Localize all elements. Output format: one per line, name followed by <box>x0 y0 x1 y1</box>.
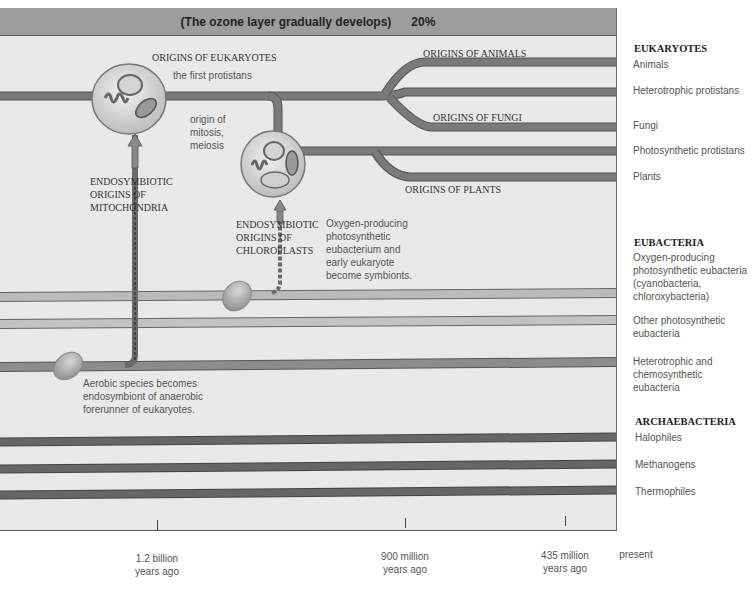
oxygen-symbionts-label: Oxygen-producing photosynthetic eubacter… <box>326 217 412 282</box>
legend-halophiles: Halophiles <box>635 431 682 444</box>
legend-oxygen-producing-eubacteria: Oxygen-producing photosynthetic eubacter… <box>633 251 747 303</box>
tick-1-2-billion <box>157 520 158 530</box>
legend-fungi: Fungi <box>633 119 658 132</box>
legend-animals: Animals <box>633 58 669 71</box>
tick-435-million <box>565 516 566 526</box>
cyanobacterium-icon <box>217 275 257 316</box>
first-protistans-label: the first protistans <box>173 69 252 82</box>
first-protistan-cell-icon <box>92 64 166 134</box>
photosynthetic-cell-icon <box>241 131 305 197</box>
legend-other-photosynthetic-eubacteria: Other photosynthetic eubacteria <box>633 314 725 340</box>
archaebacteria-heading: ARCHAEBACTERIA <box>635 416 736 427</box>
tick-900-million <box>405 518 406 528</box>
endosymbiotic-mitochondria-label: ENDOSYMBIOTIC ORIGINS OF MITOCHONDRIA <box>90 175 173 214</box>
endosymbiotic-chloroplasts-label: ENDOSYMBIOTIC ORIGINS OF CHLOROPLASTS <box>236 218 319 257</box>
eukaryotes-heading: EUKARYOTES <box>634 43 707 54</box>
legend-heterotrophic-eubacteria: Heterotrophic and chemosynthetic eubacte… <box>633 355 713 394</box>
legend-heterotrophic-protistans: Heterotrophic protistans <box>633 84 739 97</box>
legend-plants: Plants <box>633 170 661 183</box>
origins-eukaryotes-label: ORIGINS OF EUKARYOTES <box>152 51 276 64</box>
origins-animals-label: ORIGINS OF ANIMALS <box>423 47 526 60</box>
aerobic-bacterium-icon <box>48 347 88 386</box>
legend-methanogens: Methanogens <box>635 458 696 471</box>
evolution-diagram: (The ozone layer gradually develops) 20% <box>0 0 756 596</box>
time-435-million: 435 million years ago <box>525 549 605 575</box>
origins-plants-label: ORIGINS OF PLANTS <box>405 183 501 196</box>
time-present: present <box>596 548 676 561</box>
eubacteria-heading: EUBACTERIA <box>634 237 704 248</box>
legend-photosynthetic-protistans: Photosynthetic protistans <box>633 144 745 157</box>
time-900-million: 900 million years ago <box>365 550 445 576</box>
legend-thermophiles: Thermophiles <box>635 485 696 498</box>
aerobic-species-label: Aerobic species becomes endosymbiont of … <box>83 377 203 416</box>
origin-mitosis-label: origin of mitosis, meiosis <box>190 113 226 152</box>
time-1-2-billion: 1.2 billion years ago <box>117 552 197 578</box>
origins-fungi-label: ORIGINS OF FUNGI <box>433 111 522 124</box>
